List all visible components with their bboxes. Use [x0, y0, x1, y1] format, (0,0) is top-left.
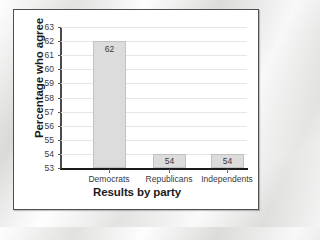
y-tick-label: 61	[32, 51, 54, 60]
gridline	[61, 83, 247, 84]
bar-republicans[interactable]: 54	[153, 154, 186, 168]
bar-democrats[interactable]: 62	[93, 41, 126, 168]
x-tick-mark	[227, 169, 228, 173]
gridline	[61, 69, 247, 70]
y-tick-mark	[58, 41, 61, 42]
gridline	[61, 126, 247, 127]
x-tick-mark	[169, 169, 170, 173]
y-tick-mark	[58, 140, 61, 141]
gridline	[61, 27, 247, 28]
x-axis-title: Results by party	[14, 186, 260, 198]
y-tick-mark	[58, 27, 61, 28]
gridline	[61, 98, 247, 99]
gridline	[61, 41, 247, 42]
y-tick-mark	[58, 83, 61, 84]
y-tick-label: 54	[32, 150, 54, 159]
y-tick-label: 57	[32, 107, 54, 116]
x-tick-mark	[109, 169, 110, 173]
y-tick-mark	[58, 55, 61, 56]
gridline	[61, 112, 247, 113]
y-tick-mark	[58, 168, 61, 169]
x-category-label-independents: Independents	[201, 175, 253, 184]
y-tick-label: 58	[32, 93, 54, 102]
bar-value-label: 54	[154, 157, 185, 166]
y-tick-label: 56	[32, 121, 54, 130]
y-tick-mark	[58, 154, 61, 155]
x-category-label-republicans: Republicans	[146, 175, 193, 184]
y-tick-label: 55	[32, 136, 54, 145]
plot-area: 63 62 61 60 59 58 57 56 55 54 53 62 54 5…	[61, 27, 247, 168]
y-tick-mark	[58, 126, 61, 127]
x-axis-line	[60, 168, 248, 170]
gridline	[61, 55, 247, 56]
bar-independents[interactable]: 54	[211, 154, 244, 168]
chart-card: Percentage who agree 63 62 61 60 59 58 5…	[13, 9, 259, 210]
y-tick-label: 59	[32, 79, 54, 88]
y-tick-label: 60	[32, 65, 54, 74]
y-tick-mark	[58, 112, 61, 113]
y-tick-label: 62	[32, 37, 54, 46]
bar-value-label: 54	[212, 157, 243, 166]
y-tick-label: 53	[32, 164, 54, 173]
gridline	[61, 140, 247, 141]
x-category-label-democrats: Democrats	[88, 175, 129, 184]
y-tick-mark	[58, 69, 61, 70]
y-tick-label: 63	[32, 23, 54, 32]
y-tick-mark	[58, 98, 61, 99]
bar-value-label: 62	[94, 45, 125, 54]
